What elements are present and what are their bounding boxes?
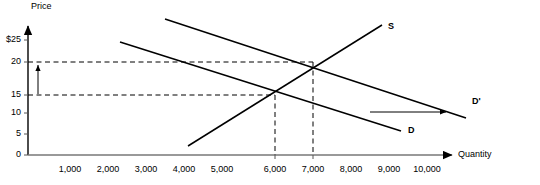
curve-label-supply: S <box>388 22 394 31</box>
supply-demand-chart: Price Quantity $25 20 15 10 5 0 1,000 2,… <box>0 0 540 185</box>
supply-curve-S <box>188 25 382 146</box>
x-tick-label-7000: 7,000 <box>294 165 332 174</box>
y-tick-label-20: 20 <box>0 57 21 66</box>
x-tick-label-3000: 3,000 <box>127 165 165 174</box>
x-tick-label-2000: 2,000 <box>89 165 127 174</box>
x-tick-label-10000: 10,000 <box>406 165 448 174</box>
y-tick-label-5: 5 <box>0 129 21 138</box>
x-tick-label-6000: 6,000 <box>256 165 294 174</box>
x-axis-title: Quantity <box>458 150 492 159</box>
y-tick-label-15: 15 <box>0 90 21 99</box>
y-tick-label-25: $25 <box>0 35 21 44</box>
demand-curve-D <box>120 42 401 131</box>
x-tick-label-8000: 8,000 <box>332 165 370 174</box>
x-tick-label-5000: 5,000 <box>203 165 241 174</box>
curve-label-demand: D <box>408 126 415 135</box>
y-tick-label-10: 10 <box>0 108 21 117</box>
y-tick-label-0: 0 <box>0 150 21 159</box>
x-tick-label-4000: 4,000 <box>165 165 203 174</box>
y-axis-title: Price <box>31 2 52 11</box>
x-tick-label-9000: 9,000 <box>370 165 408 174</box>
curve-label-demand-prime: D' <box>472 97 481 106</box>
x-tick-label-1000: 1,000 <box>51 165 89 174</box>
